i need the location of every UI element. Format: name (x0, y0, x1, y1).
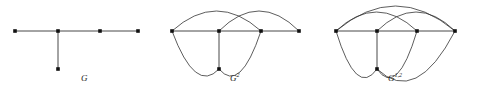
graph-vertex (136, 29, 140, 33)
caption-g-base: G (81, 73, 88, 83)
graph-vertex (375, 29, 379, 33)
arc-edge (377, 31, 417, 78)
graph-vertex (56, 29, 60, 33)
graph-vertex (453, 29, 457, 33)
caption-graph-g: G (81, 74, 88, 83)
panel-g (13, 29, 140, 71)
caption-graph-g2: G2 (230, 74, 240, 83)
graph-vertex (259, 29, 263, 33)
panel-g2 (170, 11, 301, 76)
graph-vertex (13, 29, 17, 33)
graph-vertex (375, 67, 379, 71)
panel-g12 (334, 6, 457, 81)
arc-edge (377, 12, 455, 31)
arc-edge (172, 11, 261, 31)
figure-root: G G2 G1,2 (0, 0, 479, 91)
graph-vertex (98, 29, 102, 33)
caption-g12-superscript: 1,2 (395, 72, 403, 78)
graph-vertex (297, 29, 301, 33)
arc-edge (172, 31, 219, 76)
graph-vertex (217, 67, 221, 71)
graph-diagram-canvas (0, 0, 479, 91)
graph-vertex (334, 29, 338, 33)
arc-edge (336, 6, 455, 31)
arc-edge (219, 31, 261, 76)
arc-edge (336, 31, 377, 78)
arc-edge (219, 11, 299, 31)
caption-g2-superscript: 2 (237, 72, 240, 78)
graph-vertex (170, 29, 174, 33)
graph-vertex (56, 67, 60, 71)
caption-graph-g12: G1,2 (388, 74, 402, 83)
graph-vertex (217, 29, 221, 33)
graph-vertex (415, 29, 419, 33)
